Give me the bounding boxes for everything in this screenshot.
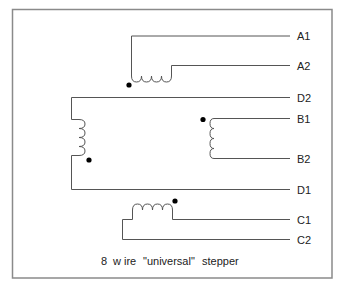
terminal-label-b1: B1 xyxy=(297,113,310,125)
terminal-label-a2: A2 xyxy=(297,60,310,72)
terminal-label-b2: B2 xyxy=(297,153,310,165)
terminal-label-c2: C2 xyxy=(297,234,311,246)
caption-part-stepper: stepper xyxy=(202,255,239,267)
caption-part-universal: "universal" xyxy=(143,255,195,267)
caption-part-count: 8 xyxy=(101,255,107,267)
polarity-dot-c xyxy=(172,198,177,203)
polarity-dot-d xyxy=(86,157,91,162)
caption-part-wire: w ire xyxy=(112,255,136,267)
polarity-dot-b xyxy=(200,117,205,122)
terminal-label-c1: C1 xyxy=(297,214,311,226)
diagram-frame xyxy=(13,10,333,279)
terminal-label-a1: A1 xyxy=(297,30,310,42)
terminal-label-d2: D2 xyxy=(297,92,311,104)
stepper-wiring-diagram: A1 A2 D2 B1 B2 D1 C1 C2 8 w ire "univers… xyxy=(0,0,345,290)
terminal-label-d1: D1 xyxy=(297,184,311,196)
polarity-dot-a xyxy=(126,82,131,87)
